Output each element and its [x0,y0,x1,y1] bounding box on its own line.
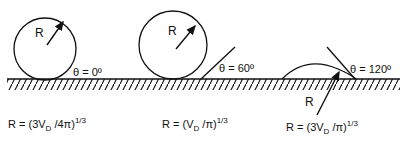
angle-label: θ = 120º [350,64,391,75]
droplet-theta-0 [14,18,76,80]
radius-arrow-icon [47,22,63,45]
formula: R = (3VD /π)1/3 [286,120,358,136]
formula: R = (VD /π)1/3 [162,117,228,133]
angle-label: θ = 60º [219,63,254,74]
sphere-outline [139,11,207,79]
formula: R = (3VD /4π)1/3 [8,117,86,133]
radius-label: R [305,96,314,108]
radius-arrow-icon [176,26,195,49]
substrate-surface [7,79,400,90]
radius-label: R [35,27,44,39]
cap-outline [282,64,356,79]
angle-label: θ = 0º [73,67,102,78]
radius-label: R [168,25,177,37]
sphere-outline [14,18,76,80]
